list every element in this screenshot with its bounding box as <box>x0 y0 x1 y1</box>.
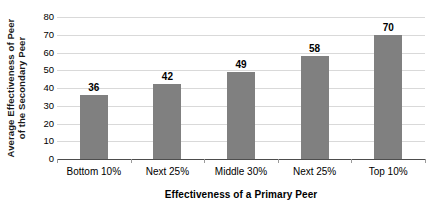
bar-slot: 49 <box>204 17 278 159</box>
x-axis-category-label: Bottom 10% <box>57 165 131 178</box>
bar-value-label: 42 <box>162 71 173 82</box>
bar[interactable] <box>227 72 255 159</box>
bar[interactable] <box>80 95 108 159</box>
x-axis-category-label: Next 25% <box>131 165 205 178</box>
y-axis-tick-label: 30 <box>30 101 54 111</box>
bar-value-label: 49 <box>235 59 246 70</box>
x-axis-category-labels: Bottom 10%Next 25%Middle 30%Next 25%Top … <box>57 165 425 181</box>
x-axis-category-label: Middle 30% <box>204 165 278 178</box>
y-axis-tick-label: 60 <box>30 48 54 58</box>
x-axis-title: Effectiveness of a Primary Peer <box>57 189 425 200</box>
x-axis-category-label: Top 10% <box>351 165 425 178</box>
y-axis-tick-label: 10 <box>30 136 54 146</box>
y-axis-tick-label: 70 <box>30 30 54 40</box>
x-axis-tick <box>57 159 58 163</box>
bar-chart: Average Effectiveness of Peer of the Sec… <box>0 0 437 212</box>
x-axis-tick <box>131 159 132 163</box>
x-axis-category-label: Next 25% <box>278 165 352 178</box>
bar-value-label: 70 <box>383 22 394 33</box>
y-axis-tick-label: 20 <box>30 119 54 129</box>
x-axis-tick <box>351 159 352 163</box>
bar-slot: 70 <box>351 17 425 159</box>
y-axis-title-line-1: Average Effectiveness of Peer <box>5 19 17 158</box>
bar[interactable] <box>374 35 402 159</box>
bar-slot: 42 <box>131 17 205 159</box>
x-axis-line <box>57 159 426 160</box>
y-axis-tick-label: 80 <box>30 12 54 22</box>
bar-slot: 58 <box>278 17 352 159</box>
y-axis-tick-labels: 80706050403020100 <box>30 0 54 212</box>
bar-value-label: 36 <box>88 82 99 93</box>
bar-slot: 36 <box>57 17 131 159</box>
y-axis-title: Average Effectiveness of Peer of the Sec… <box>0 8 32 168</box>
x-axis-tick <box>278 159 279 163</box>
x-axis-tick <box>204 159 205 163</box>
bar-value-label: 58 <box>309 43 320 54</box>
y-axis-tick-label: 0 <box>30 154 54 164</box>
bar[interactable] <box>301 56 329 159</box>
y-axis-tick-label: 40 <box>30 83 54 93</box>
y-axis-tick-label: 50 <box>30 65 54 75</box>
x-axis-tick <box>425 159 426 163</box>
y-axis-title-line-2: of the Secondary Peer <box>16 37 28 139</box>
bar[interactable] <box>153 84 181 159</box>
bars-layer: 3642495870 <box>57 17 425 159</box>
